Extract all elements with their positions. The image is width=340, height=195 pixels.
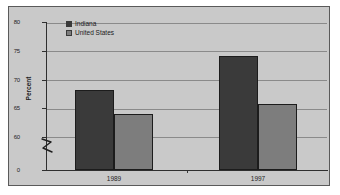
legend-item-united-states: United States bbox=[66, 28, 114, 37]
axis-break-icon bbox=[40, 135, 54, 157]
y-tick-mark-70 bbox=[42, 80, 47, 81]
y-tick-mark-75 bbox=[42, 51, 47, 52]
gridline-70 bbox=[47, 80, 327, 81]
chart-figure: 80 75 70 65 60 0 Percent Indiana United … bbox=[0, 0, 340, 195]
legend-label-indiana: Indiana bbox=[75, 19, 96, 28]
y-tick-label-0: 0 bbox=[0, 167, 20, 173]
y-tick-mark-65 bbox=[42, 108, 47, 109]
y-tick-label-75: 75 bbox=[0, 48, 20, 54]
x-axis-center-tick bbox=[187, 171, 188, 173]
chart-panel: 80 75 70 65 60 0 Percent Indiana United … bbox=[8, 6, 330, 186]
y-tick-mark-0 bbox=[42, 170, 47, 171]
y-tick-mark-80 bbox=[42, 22, 47, 23]
bar-united-states-1989 bbox=[114, 114, 153, 170]
bar-united-states-1997 bbox=[258, 104, 297, 170]
plot-area bbox=[47, 23, 327, 170]
legend-label-united-states: United States bbox=[75, 28, 114, 37]
gridline-75 bbox=[47, 51, 327, 52]
y-tick-label-70: 70 bbox=[0, 77, 20, 83]
legend-swatch-united-states bbox=[66, 30, 72, 36]
y-tick-label-65: 65 bbox=[0, 105, 20, 111]
y-axis-title: Percent bbox=[25, 59, 32, 119]
x-tick-label-1997: 1997 bbox=[228, 175, 288, 182]
bar-indiana-1989 bbox=[75, 90, 114, 170]
legend-swatch-indiana bbox=[66, 21, 72, 27]
y-tick-label-60: 60 bbox=[0, 134, 20, 140]
bar-indiana-1997 bbox=[219, 56, 258, 171]
chart-legend: Indiana United States bbox=[66, 19, 114, 37]
x-tick-label-1989: 1989 bbox=[84, 175, 144, 182]
y-tick-label-80: 80 bbox=[0, 19, 20, 25]
legend-item-indiana: Indiana bbox=[66, 19, 114, 28]
